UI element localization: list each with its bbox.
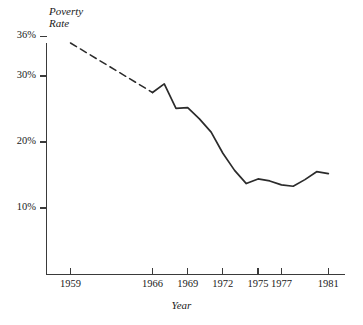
x-axis-title: Year — [0, 299, 363, 311]
y-axis-tick-label: 10% — [2, 201, 36, 212]
y-axis-tick-label: 36% — [2, 29, 36, 40]
x-axis-tick-label: 1959 — [51, 278, 91, 289]
axis-lines — [46, 43, 345, 275]
x-axis-tick-label: 1977 — [261, 278, 301, 289]
y-axis-tick-label: 20% — [2, 135, 36, 146]
series-line-poverty-rate — [153, 84, 329, 186]
x-axis-tick-label: 1966 — [133, 278, 173, 289]
plot-area — [0, 0, 363, 325]
poverty-rate-line-chart: Poverty Rate 36%30%20%10% 19591966196919… — [0, 0, 363, 325]
series-line-interpolated — [71, 43, 153, 93]
x-axis-tick-marks — [71, 268, 329, 275]
x-axis-tick-label: 1981 — [308, 278, 348, 289]
data-series-group — [71, 43, 329, 186]
x-axis-tick-label: 1969 — [168, 278, 208, 289]
y-axis-tick-marks — [40, 36, 47, 208]
x-axis-tick-label: 1972 — [203, 278, 243, 289]
y-axis-tick-label: 30% — [2, 69, 36, 80]
